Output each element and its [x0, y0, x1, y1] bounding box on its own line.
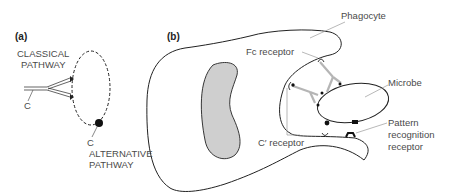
leader-line	[287, 88, 300, 135]
pattern-recognition-receptor-label-line2: recognition	[388, 129, 434, 140]
nucleus-shape	[201, 62, 240, 158]
classical-pathway-label-line2: PATHWAY	[21, 59, 66, 70]
c-label-left: C	[24, 100, 31, 111]
c-receptor-hook-icon	[289, 82, 291, 90]
pattern-recognition-receptor-icon	[346, 133, 355, 137]
c-receptor-cup-icon	[322, 133, 328, 136]
antigen-dot-icon	[339, 83, 342, 86]
diagram-canvas	[0, 0, 456, 194]
panel-b-label: (b)	[167, 31, 180, 42]
leader-line	[92, 127, 97, 137]
dashed-microbe-outline	[72, 51, 110, 125]
leader-line	[302, 52, 318, 58]
c-label-bottom: C	[87, 137, 94, 148]
alternative-pathway-label-line2: PATHWAY	[89, 159, 134, 170]
c-prime-receptor-label: C′ receptor	[258, 137, 304, 148]
microbe-label: Microbe	[388, 77, 422, 88]
fc-receptor-label: Fc receptor	[246, 46, 294, 57]
c-receptor-dot-icon	[291, 83, 294, 86]
complement-dot-icon	[95, 119, 103, 127]
pattern-recognition-receptor-label-line3: receptor	[388, 141, 423, 152]
pamp-block-icon	[352, 120, 358, 124]
complement-dot-icon	[325, 121, 330, 126]
antigen-dot-icon	[317, 104, 320, 107]
panel-a-label: (a)	[15, 31, 27, 42]
classical-pathway-label-line1: CLASSICAL	[17, 48, 69, 59]
antigen-binding-arrow-icon	[70, 94, 74, 100]
phagocyte-label: Phagocyte	[341, 10, 386, 21]
leader-line	[356, 123, 387, 133]
alternative-pathway-label-line1: ALTERNATIVE	[89, 148, 153, 159]
antigen-dot-icon	[321, 92, 324, 95]
pattern-recognition-receptor-label-line1: Pattern	[388, 117, 419, 128]
